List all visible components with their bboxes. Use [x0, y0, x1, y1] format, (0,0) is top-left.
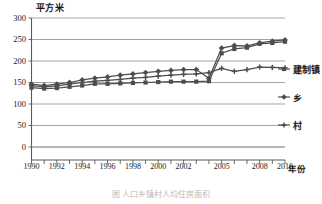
data-point-square: [194, 80, 198, 84]
x-tick-label: 1998: [121, 162, 145, 171]
data-point-diamond: [181, 67, 187, 73]
x-tick-label: 2000: [146, 162, 170, 171]
data-point-square: [131, 81, 135, 85]
chart-figure: 平方米 年份 050100150200250300 19901992199419…: [0, 0, 322, 204]
data-point-diamond: [143, 70, 149, 76]
data-point-square: [169, 80, 173, 84]
data-point-square: [156, 80, 160, 84]
legend-item-label: 建制镇: [293, 63, 320, 76]
data-point-square: [182, 80, 186, 84]
y-axis-title: 平方米: [36, 1, 64, 14]
y-tick-label: 50: [2, 120, 26, 130]
data-point-diamond: [155, 68, 161, 74]
y-tick-label: 100: [2, 99, 26, 109]
x-tick-label: 1996: [96, 162, 120, 171]
data-point-diamond: [219, 45, 225, 51]
x-tick-label: 2002: [172, 162, 196, 171]
x-tick-label: 2005: [210, 162, 234, 171]
legend-item-label: 村: [293, 119, 302, 132]
figure-caption: 图 人口乡镇村人均住房面积: [0, 188, 322, 199]
y-tick-label: 150: [2, 77, 26, 87]
x-tick-label: 1994: [70, 162, 94, 171]
y-tick-label: 250: [2, 34, 26, 44]
y-tick-label: 200: [2, 56, 26, 66]
y-tick-label: 300: [2, 13, 26, 23]
data-point-diamond: [168, 68, 174, 74]
x-tick-label: 2010: [273, 162, 297, 171]
x-tick-label: 1990: [20, 162, 44, 171]
plot-area: [0, 0, 322, 204]
legend-item-label: 乡: [293, 91, 302, 104]
x-tick-label: 2008: [248, 162, 272, 171]
data-point-square: [143, 80, 147, 84]
x-tick-label: 1992: [45, 162, 69, 171]
y-tick-label: 0: [2, 142, 26, 152]
